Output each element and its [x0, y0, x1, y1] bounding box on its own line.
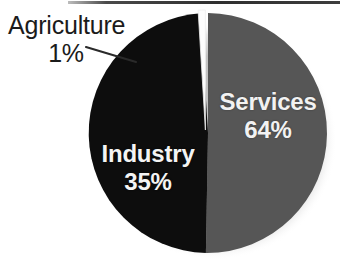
pie-label-industry-name: Industry	[92, 141, 204, 167]
pie-label-industry: Industry 35%	[92, 141, 204, 195]
pie-label-agriculture: Agriculture 1%	[8, 12, 136, 67]
pie-label-services: Services 64%	[212, 89, 324, 143]
pie-label-agriculture-name: Agriculture	[8, 12, 136, 39]
pie-label-industry-value: 35%	[92, 169, 204, 195]
pie-label-agriculture-value: 1%	[8, 40, 136, 67]
pie-label-services-name: Services	[212, 89, 324, 115]
pie-label-services-value: 64%	[212, 117, 324, 143]
pie-chart-figure: Agriculture 1% Services 64% Industry 35%	[0, 0, 340, 265]
